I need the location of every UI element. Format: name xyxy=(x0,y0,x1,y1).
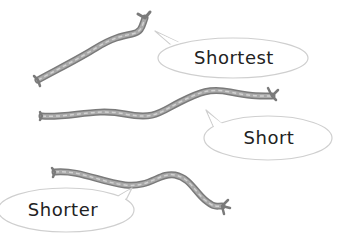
rope-comparison-illustration: Shortest Short Shorter xyxy=(0,0,340,241)
bubble-label-shortest: Shortest xyxy=(194,47,274,68)
bubble-label-short: Short xyxy=(244,127,295,148)
rope-short xyxy=(40,88,278,120)
bubble-label-shorter: Shorter xyxy=(28,199,98,220)
rope-shortest xyxy=(34,12,150,86)
